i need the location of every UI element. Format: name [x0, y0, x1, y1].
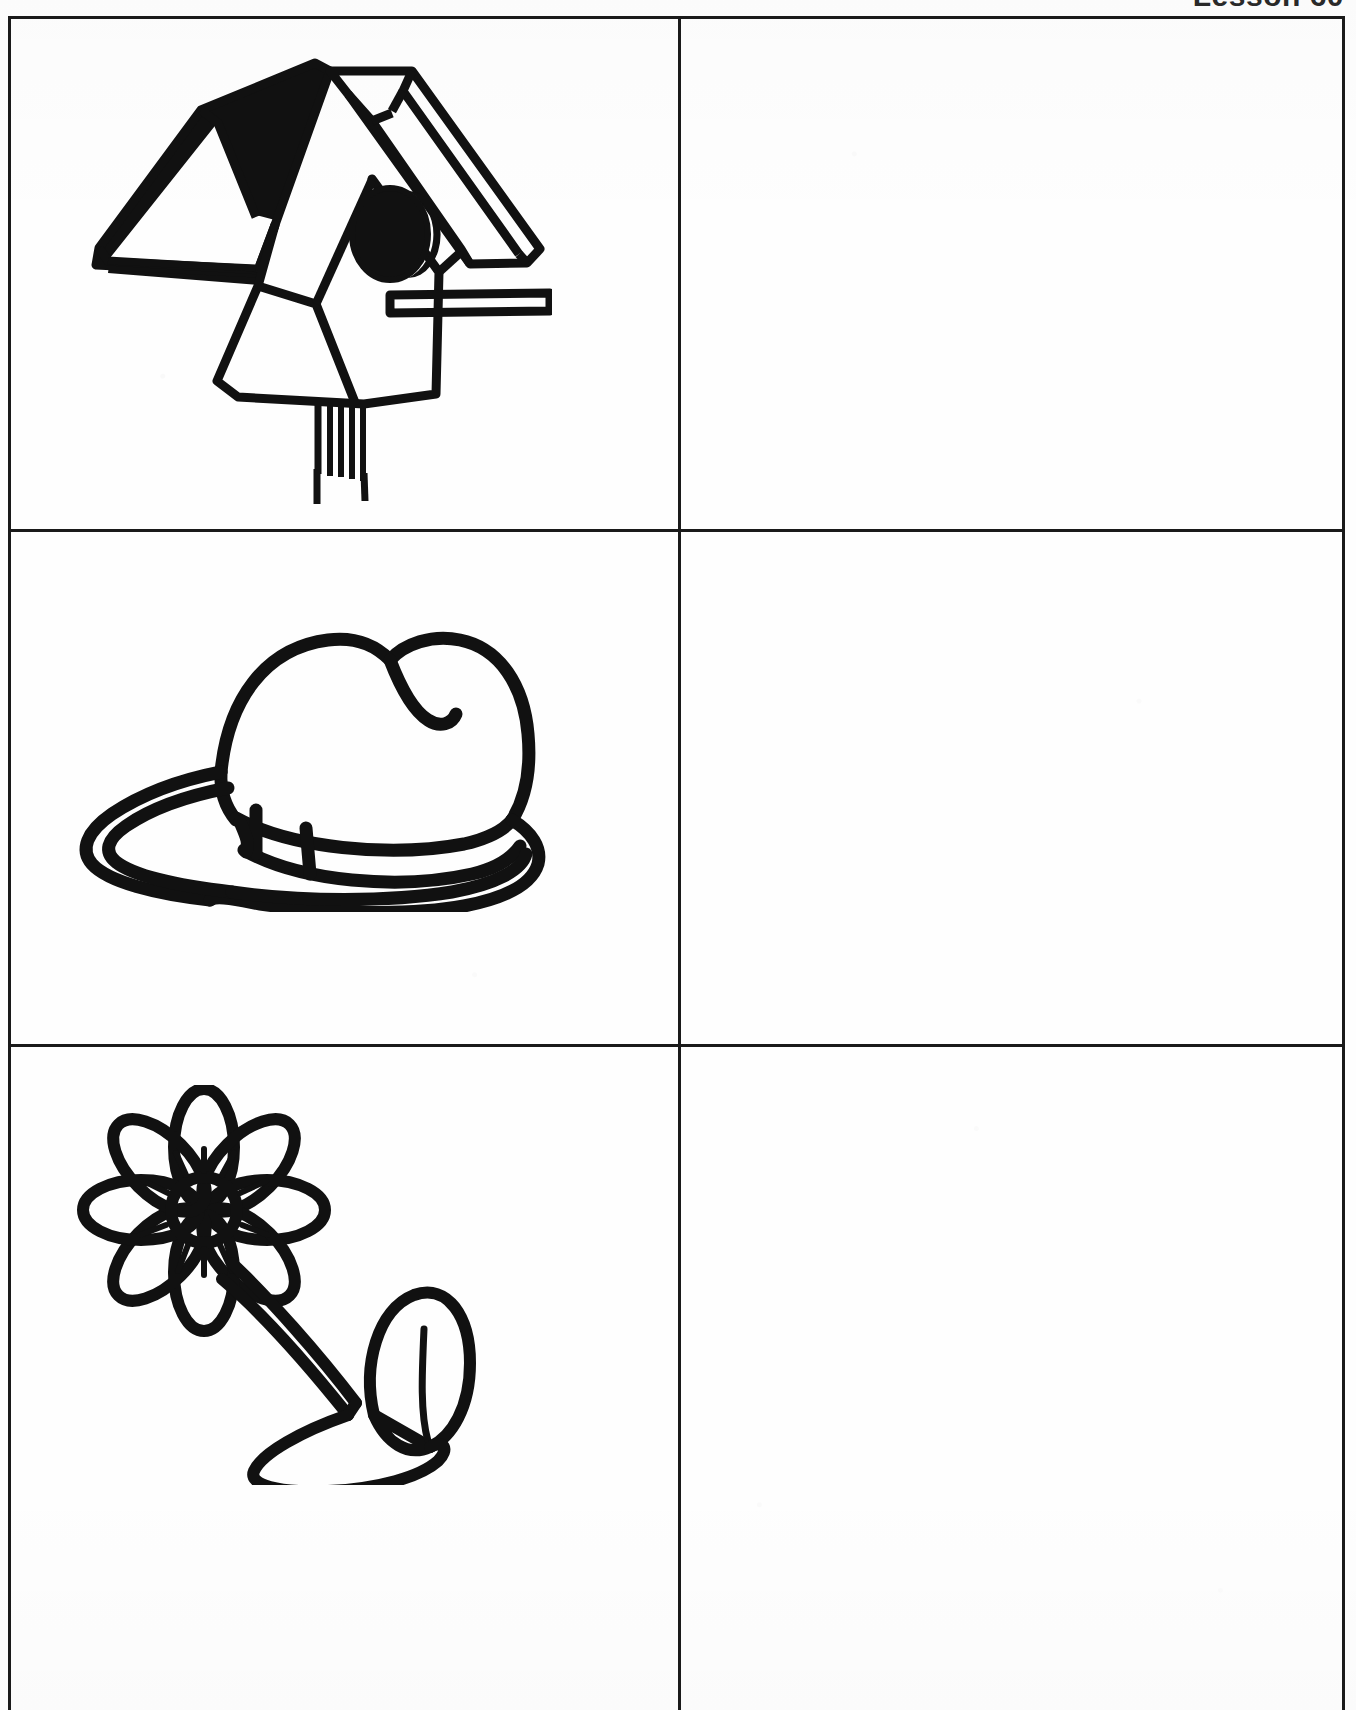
- answer-cell-2[interactable]: [678, 532, 1345, 1044]
- cowboy-hat-icon: [60, 582, 550, 912]
- answer-cell-1[interactable]: [678, 19, 1345, 529]
- picture-cell-birdhouse: [8, 19, 678, 529]
- birdhouse-icon: [72, 49, 552, 509]
- table-row: [8, 532, 1345, 1044]
- worksheet-table: [8, 16, 1345, 1710]
- header-right-lesson-label: Lesson 60: [1193, 0, 1344, 12]
- picture-cell-hat: [8, 532, 678, 1044]
- worksheet-page: Lesson 60: [0, 0, 1356, 1710]
- table-row: [8, 19, 1345, 529]
- table-row: [8, 1047, 1345, 1710]
- answer-cell-3[interactable]: [678, 1047, 1345, 1710]
- page-header: Lesson 60: [0, 0, 1356, 12]
- flower-icon: [56, 1085, 546, 1485]
- picture-cell-flower: [8, 1047, 678, 1710]
